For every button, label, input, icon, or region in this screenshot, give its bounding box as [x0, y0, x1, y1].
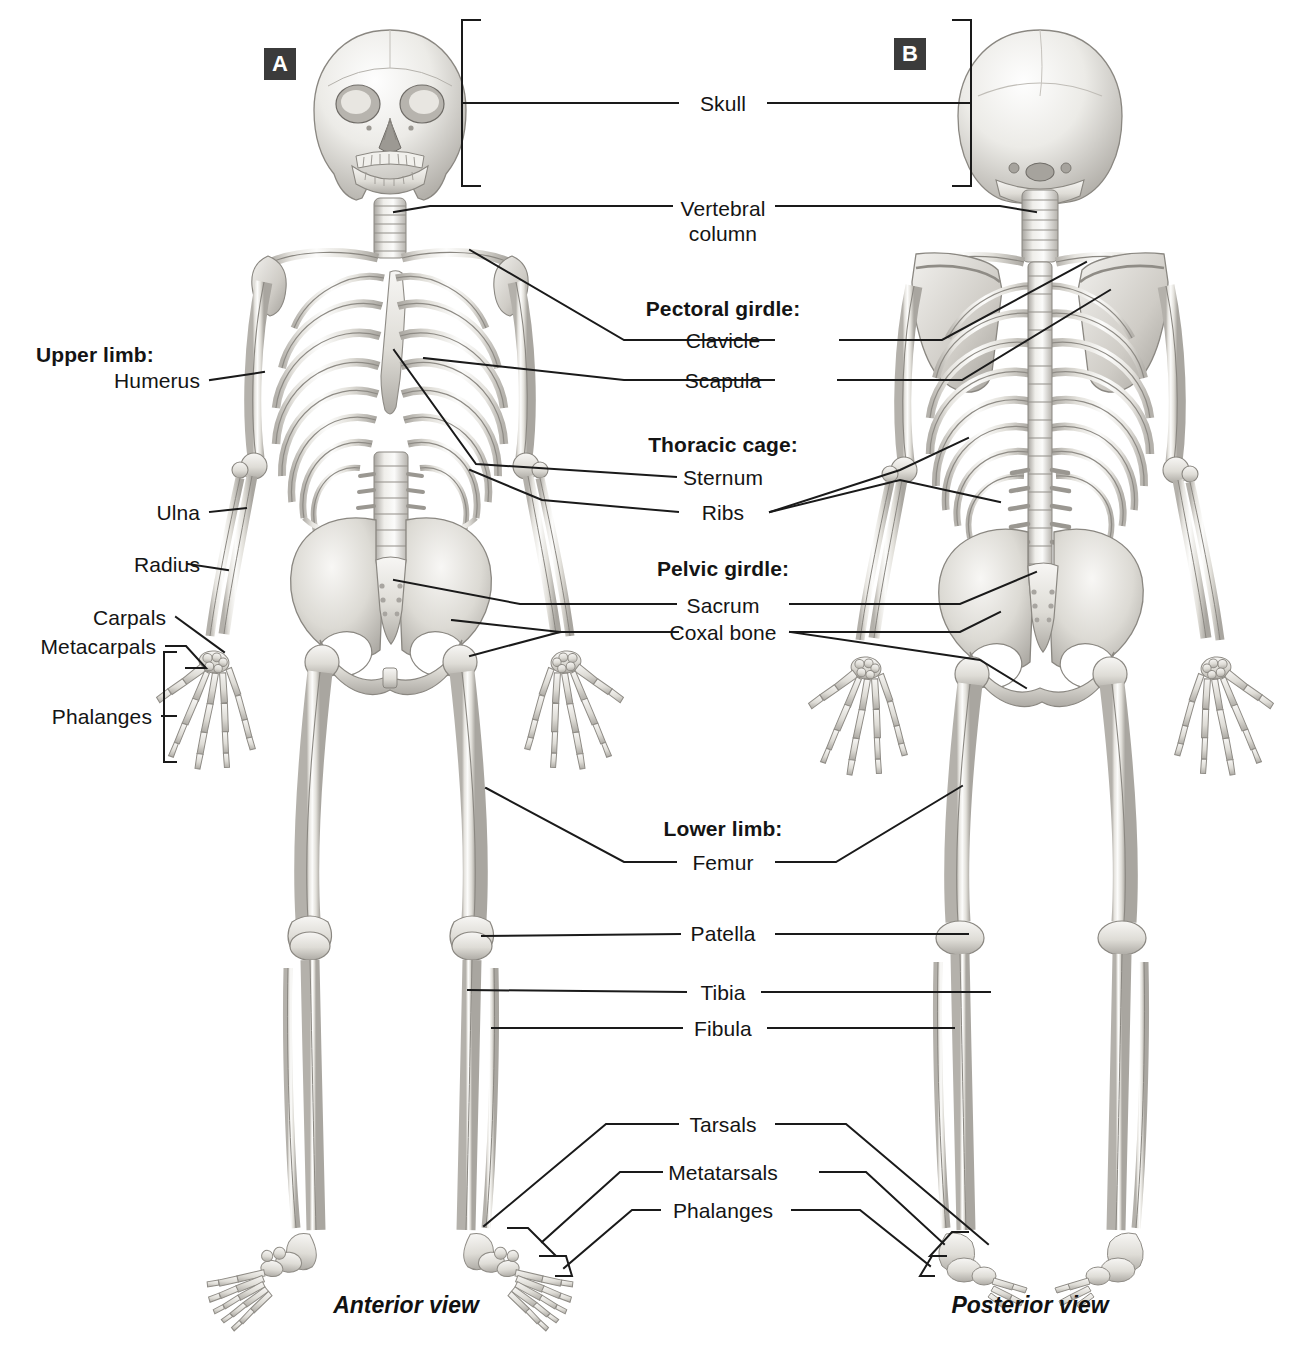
label-scapula: Scapula: [685, 368, 762, 393]
anterior-cervical-spine: [374, 198, 406, 258]
bracket-phalanges-foot-anterior: [548, 1256, 572, 1276]
caption-posterior-view: Posterior view: [951, 1292, 1108, 1319]
anterior-skeleton: [147, 30, 632, 1339]
label-phalanges-foot: Phalanges: [673, 1198, 773, 1223]
leader-coxal-anterior-2: [470, 632, 560, 656]
label-lower-limb: Lower limb:: [664, 816, 783, 841]
leader-vertebral-column-posterior: [776, 206, 1036, 212]
leader-patella-anterior: [482, 934, 680, 936]
label-sacrum: Sacrum: [687, 593, 760, 618]
label-patella: Patella: [691, 921, 756, 946]
label-metatarsals: Metatarsals: [668, 1160, 778, 1185]
leader-tibia-anterior: [468, 990, 686, 992]
anterior-right-lower-limb: [443, 645, 578, 1339]
leader-metatarsals-anterior: [542, 1172, 662, 1242]
label-thoracic-cage: Thoracic cage:: [648, 432, 798, 457]
label-upper-limb: Upper limb:: [36, 342, 154, 367]
label-vertebral-column: Vertebral column: [633, 196, 813, 246]
label-fibula: Fibula: [694, 1016, 752, 1041]
posterior-right-upper-limb: [1162, 286, 1283, 782]
label-phalanges-hand: Phalanges: [52, 704, 152, 729]
posterior-cervical-spine: [1022, 190, 1058, 262]
leader-phalanges-foot-anterior: [564, 1210, 660, 1268]
posterior-right-lower-limb: [1055, 657, 1146, 1308]
leader-metatarsals-posterior: [820, 1172, 944, 1244]
caption-anterior-view: Anterior view: [333, 1292, 479, 1319]
leader-phalanges-foot-posterior: [792, 1210, 930, 1266]
label-tibia: Tibia: [700, 980, 745, 1005]
label-tarsals: Tarsals: [689, 1112, 756, 1137]
label-femur: Femur: [692, 850, 753, 875]
leader-ribs-anterior: [470, 470, 678, 512]
label-sternum: Sternum: [683, 465, 763, 490]
panel-tag-a: A: [264, 48, 296, 80]
posterior-skull: [958, 30, 1122, 205]
label-coxal-bone: Coxal bone: [669, 620, 776, 645]
anterior-left-upper-limb: [147, 282, 268, 776]
label-carpals: Carpals: [93, 605, 166, 630]
panel-tag-b: B: [894, 38, 926, 70]
label-ribs: Ribs: [702, 500, 744, 525]
leader-vertebral-column-anterior: [394, 206, 672, 212]
label-vertebral-column-line2: column: [689, 222, 757, 245]
label-clavicle: Clavicle: [686, 328, 760, 353]
posterior-skeleton: [799, 30, 1282, 1308]
label-metacarpals: Metacarpals: [41, 634, 156, 659]
label-pectoral-girdle: Pectoral girdle:: [646, 296, 800, 321]
label-humerus: Humerus: [114, 368, 200, 393]
label-vertebral-column-line1: Vertebral: [681, 197, 766, 220]
skeleton-figure: A B Skull Vertebral column Pectoral gird…: [0, 0, 1314, 1349]
anterior-right-upper-limb: [512, 282, 633, 776]
label-radius: Radius: [134, 552, 200, 577]
leader-femur-posterior: [776, 786, 962, 862]
label-skull: Skull: [700, 91, 746, 116]
label-pelvic-girdle: Pelvic girdle:: [657, 556, 789, 581]
anterior-skull: [314, 30, 466, 200]
posterior-left-upper-limb: [799, 286, 920, 782]
label-ulna: Ulna: [156, 500, 200, 525]
leader-femur-anterior: [486, 788, 676, 862]
